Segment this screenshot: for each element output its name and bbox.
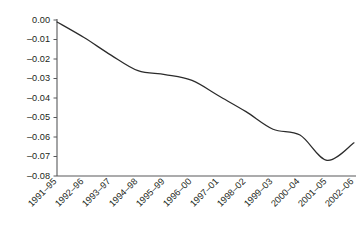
x-axis-tick-labels: 1991–951992–961993–971994–981995–991996–…	[26, 176, 355, 208]
y-axis-tick-label: –0.02	[27, 54, 50, 64]
y-axis-tick-label: –0.03	[27, 73, 50, 83]
y-axis-tick-label: –0.07	[27, 151, 50, 161]
y-axis-tick-label: –0.04	[27, 93, 50, 103]
line-chart: 0.00–0.01–0.02–0.03–0.04–0.05–0.06–0.07–…	[0, 0, 362, 231]
data-series-line	[57, 22, 354, 161]
y-axis-tick-label: –0.06	[27, 132, 50, 142]
x-axis-tick-label: 1995–99	[134, 176, 166, 208]
y-axis-tick-label: –0.01	[27, 34, 50, 44]
y-axis-tick-labels: 0.00–0.01–0.02–0.03–0.04–0.05–0.06–0.07–…	[27, 15, 50, 181]
chart-canvas: 0.00–0.01–0.02–0.03–0.04–0.05–0.06–0.07–…	[0, 0, 362, 231]
y-axis-tick-label: –0.08	[27, 171, 50, 181]
y-axis-tick-label: –0.05	[27, 112, 50, 122]
x-axis-tick-label: 1999–03	[242, 176, 274, 208]
x-axis-tick-label: 1998–02	[215, 176, 247, 208]
x-axis-tick-label: 1994–98	[107, 176, 139, 208]
x-axis-tick-label: 1996–00	[161, 176, 193, 208]
x-axis-tick-label: 1991–95	[26, 176, 58, 208]
x-axis-tick-label: 1992–96	[53, 176, 85, 208]
x-axis-tick-label: 1997–01	[188, 176, 220, 208]
x-axis-tick-label: 2002–06	[323, 176, 355, 208]
x-axis-tick-label: 2001–05	[296, 176, 328, 208]
x-axis-tick-label: 1993–97	[80, 176, 112, 208]
x-axis-tick-label: 2000–04	[269, 176, 301, 208]
y-axis-tick-label: 0.00	[32, 15, 50, 25]
